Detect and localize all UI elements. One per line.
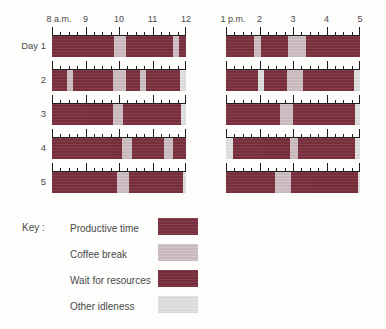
morning-timeline-bar (52, 138, 186, 159)
segment-coffee (287, 70, 303, 91)
segment-wait (86, 104, 113, 125)
hour-tick (119, 129, 120, 138)
morning-timeline-bar (52, 172, 186, 193)
segment-idle (355, 138, 360, 159)
segment-idle (226, 138, 233, 159)
segment-coffee (280, 104, 293, 125)
hour-tick (327, 163, 328, 172)
segment-productive (52, 172, 117, 193)
key-label: Other idleness (70, 300, 134, 314)
morning-timeline-bar (52, 104, 186, 125)
hour-tick (52, 95, 53, 104)
hour-tick (293, 95, 294, 104)
afternoon-ruler (226, 163, 360, 172)
hour-tick (153, 163, 154, 172)
segment-productive (293, 104, 355, 125)
row-label-1: Day 1 (0, 40, 46, 51)
segment-productive (52, 36, 114, 57)
key-label: Coffee break (70, 248, 127, 262)
hour-tick (86, 27, 87, 36)
morning-ruler (52, 95, 186, 104)
hour-tick (185, 129, 186, 138)
hour-tick (153, 129, 154, 138)
afternoon-timeline-bar (226, 104, 360, 125)
afternoon-ruler (226, 129, 360, 138)
hour-tick (86, 163, 87, 172)
hour-tick (327, 95, 328, 104)
segment-productive (303, 70, 354, 91)
hour-tick (226, 61, 227, 70)
segment-productive (306, 36, 360, 57)
hour-tick (359, 61, 360, 70)
segment-coffee (114, 36, 126, 57)
hour-tick (260, 129, 261, 138)
hour-tick (119, 27, 120, 36)
key-row: Wait for resources (70, 270, 320, 294)
segment-productive (52, 138, 112, 159)
segment-coffee (254, 36, 261, 57)
segment-productive (233, 138, 263, 159)
morning-ruler (52, 27, 186, 36)
hour-tick (293, 61, 294, 70)
segment-coffee (117, 172, 129, 193)
hour-tick (327, 129, 328, 138)
hour-tick (327, 27, 328, 36)
segment-coffee (122, 138, 132, 159)
segment-coffee (164, 138, 172, 159)
segment-productive (123, 104, 181, 125)
hour-tick (153, 95, 154, 104)
key-swatch-idle (158, 296, 198, 313)
segment-productive (126, 36, 173, 57)
segment-productive (264, 70, 287, 91)
segment-wait (112, 138, 122, 159)
segment-productive (226, 36, 254, 57)
hour-tick (86, 129, 87, 138)
axis-tick-label: 2 (257, 12, 262, 26)
segment-productive (291, 172, 313, 193)
afternoon-timeline-bar (226, 172, 360, 193)
axis-tick-label: 3 (290, 12, 295, 26)
row-label-2: 2 (0, 74, 46, 85)
hour-tick (260, 163, 261, 172)
afternoon-timeline-bar (226, 70, 360, 91)
segment-productive (261, 36, 288, 57)
chart-row: 5 (0, 163, 386, 193)
afternoon-ruler (226, 61, 360, 70)
key-label: Wait for resources (70, 274, 151, 288)
chart-row: Day 1 (0, 27, 386, 57)
hour-tick (119, 61, 120, 70)
hour-tick (86, 61, 87, 70)
hour-tick (359, 95, 360, 104)
hour-tick (52, 27, 53, 36)
segment-productive (52, 104, 86, 125)
hour-tick (293, 163, 294, 172)
segment-productive (226, 70, 258, 91)
hour-tick (359, 129, 360, 138)
segment-idle (355, 104, 360, 125)
axis-tick-label: 1 p.m. (220, 12, 245, 26)
hour-tick (260, 27, 261, 36)
hour-tick (226, 95, 227, 104)
morning-timeline-bar (52, 70, 186, 91)
segment-coffee (113, 70, 126, 91)
hour-tick (226, 129, 227, 138)
key-swatch-coffee (158, 244, 198, 261)
segment-idle (181, 104, 186, 125)
hour-tick (185, 27, 186, 36)
segment-productive (226, 172, 275, 193)
hour-tick (226, 163, 227, 172)
segment-idle (180, 70, 186, 91)
segment-productive (52, 70, 67, 91)
hour-tick (119, 95, 120, 104)
segment-coffee (288, 36, 306, 57)
segment-productive (126, 70, 140, 91)
segment-productive (132, 138, 164, 159)
chart-row: 2 (0, 61, 386, 91)
segment-wait (263, 138, 290, 159)
afternoon-timeline-bar (226, 138, 360, 159)
key-swatch-wait (158, 270, 198, 287)
hour-tick (327, 61, 328, 70)
segment-productive (146, 70, 180, 91)
afternoon-axis-labels: 1 p.m.2345 (0, 12, 386, 26)
segment-idle (183, 172, 186, 193)
